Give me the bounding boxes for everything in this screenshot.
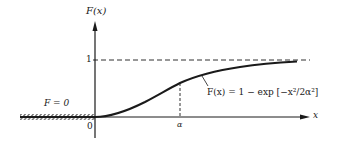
diagram-canvas bbox=[0, 0, 338, 146]
x-axis bbox=[95, 115, 310, 120]
x-axis-arrow-icon bbox=[300, 115, 310, 120]
asymptote-value-label: 1 bbox=[86, 55, 92, 64]
zero-region-label: F = 0 bbox=[44, 99, 69, 108]
zero-region-hatching bbox=[20, 114, 95, 120]
curve-formula-label: F(x) = 1 − exp [−x²/2α²] bbox=[207, 88, 318, 97]
formula-pointer bbox=[202, 76, 208, 86]
y-axis bbox=[93, 21, 98, 138]
alpha-tick-label: α bbox=[177, 121, 182, 129]
cdf-diagram: F(x) 1 0 F = 0 α x F(x) = 1 − exp [−x²/2… bbox=[0, 0, 338, 146]
origin-label: 0 bbox=[87, 122, 93, 131]
y-axis-arrow-icon bbox=[93, 21, 98, 31]
x-axis-label: x bbox=[313, 111, 318, 120]
y-axis-label: F(x) bbox=[86, 6, 106, 16]
